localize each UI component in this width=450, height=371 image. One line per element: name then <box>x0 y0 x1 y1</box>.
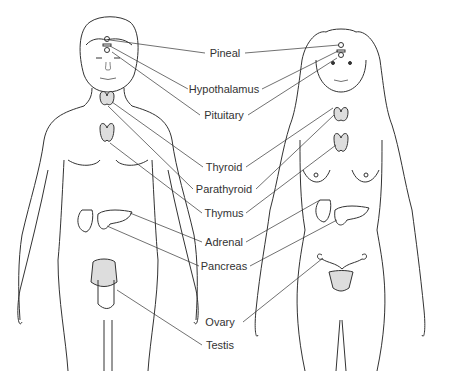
label-thyroid: Thyroid <box>205 161 244 173</box>
male-figure <box>18 17 198 371</box>
label-thymus: Thymus <box>203 207 244 219</box>
label-ovary: Ovary <box>204 316 235 328</box>
label-pancreas: Pancreas <box>200 260 248 272</box>
label-adrenal: Adrenal <box>204 236 244 248</box>
label-pineal: Pineal <box>209 47 242 59</box>
label-pituitary: Pituitary <box>203 109 245 121</box>
label-parathyroid: Parathyroid <box>195 183 253 195</box>
female-figure <box>255 29 425 371</box>
label-hypothalamus: Hypothalamus <box>188 83 260 95</box>
label-testis: Testis <box>205 339 235 351</box>
endocrine-diagram: Pineal Hypothalamus Pituitary Thyroid Pa… <box>0 0 450 371</box>
